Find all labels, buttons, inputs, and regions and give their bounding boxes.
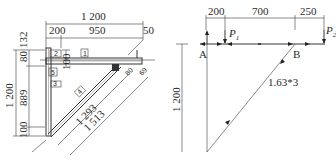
dim-700: 700 [252,5,269,17]
load-p1: P1 [228,27,239,42]
left-bracket-drawing: 1 200 200 950 50 1 200 80 132 889 100 10… [3,10,155,155]
part-tag-5: 5 [49,68,57,76]
svg-text:5: 5 [51,69,55,76]
dim-left-80: 80 [17,51,29,63]
right-structural-diagram: 200 700 250 P1 P2 A B 1.63*3 [170,5,336,152]
drawing-canvas: 1 200 200 950 50 1 200 80 132 889 100 10… [0,0,336,161]
dim-250: 250 [300,5,317,17]
dim-left-100: 100 [17,121,29,138]
dim-80: 80 [124,66,135,77]
dim-height-1200: 1 200 [170,87,182,112]
svg-text:1: 1 [83,50,87,57]
node-a: A [199,48,207,60]
dim-left-889: 889 [17,89,29,106]
part-tag-1: 1 [81,49,88,57]
dim-top-overall: 1 200 [81,10,106,22]
dim-left-overall: 1 200 [3,83,15,108]
dim-200: 200 [208,5,225,17]
gusset-plate [112,64,119,71]
part-tag-4: 4 [74,86,85,97]
dim-left-132: 132 [17,32,29,49]
dim-flange-100: 100 [60,53,72,70]
svg-text:2: 2 [54,50,58,57]
part-tag-3: 3 [51,80,61,87]
load-p2: P2 [325,24,336,39]
svg-text:3: 3 [53,80,57,87]
dim-69: 69 [138,66,149,77]
dim-top-right: 50 [143,24,155,36]
dim-top-left: 200 [49,24,66,36]
dim-top-middle: 950 [89,24,106,36]
node-b: B [293,48,300,60]
member-label: 1.63*3 [268,76,299,88]
